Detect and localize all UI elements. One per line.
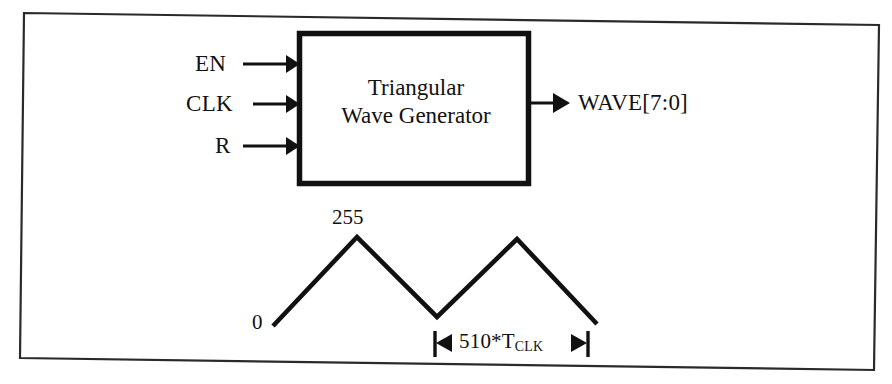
block-title: Triangular Wave Generator: [299, 74, 533, 130]
dimension-arrowhead-right: [571, 334, 587, 352]
waveform-period-subscript: CLK: [515, 339, 543, 354]
triangular-wave-trace: [273, 237, 597, 326]
waveform-period-label: 510*TCLK: [459, 331, 543, 354]
block-title-line-2: Wave Generator: [299, 102, 533, 130]
waveform-max-label: 255: [332, 207, 364, 228]
figure-container: EN CLK R Triangular Wave Generator WAVE[…: [0, 0, 892, 384]
dimension-arrowhead-left: [436, 334, 452, 352]
figure-vector-layer: [0, 0, 892, 384]
waveform-period-prefix: 510*T: [459, 329, 515, 353]
output-label-wave: WAVE[7:0]: [578, 91, 688, 114]
input-label-en: EN: [195, 52, 226, 75]
block-title-line-1: Triangular: [299, 74, 533, 102]
input-label-clk: CLK: [186, 92, 233, 115]
input-label-r: R: [215, 134, 231, 157]
waveform-min-label: 0: [252, 312, 263, 333]
output-arrowhead-wave: [553, 93, 570, 113]
